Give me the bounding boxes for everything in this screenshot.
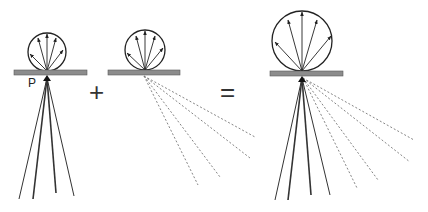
plus-operator: +: [89, 79, 104, 105]
panel-middle: [108, 30, 255, 185]
transmitted-rays: [19, 78, 74, 199]
scattered-rays: [144, 76, 255, 185]
point-p-marker: [43, 75, 51, 81]
reflected-rays: [30, 34, 63, 71]
reflection-diagram: [0, 0, 428, 212]
point-marker: [298, 76, 306, 82]
scattered-rays: [303, 78, 414, 188]
diagram-canvas: P + =: [0, 0, 428, 212]
equals-operator: =: [220, 79, 235, 105]
point-p-label: P: [28, 76, 36, 90]
panel-right: [270, 11, 414, 200]
panel-left: [14, 33, 87, 199]
transmitted-rays: [275, 78, 330, 200]
reflected-rays: [127, 31, 163, 70]
surface-bar: [14, 70, 87, 75]
surface-bar: [108, 70, 180, 75]
surface-bar: [270, 71, 343, 76]
